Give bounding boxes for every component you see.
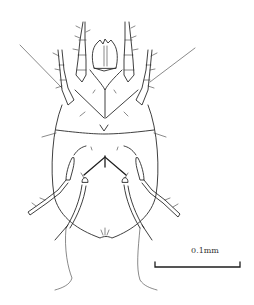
front-legs-right — [124, 22, 157, 105]
body-outline — [42, 105, 166, 238]
front-legs-left — [53, 22, 90, 105]
scale-bar-label: 0.1mm — [180, 246, 230, 255]
long-setae — [20, 45, 195, 88]
posterior-long-setae — [55, 228, 157, 290]
posterior-setae — [101, 228, 109, 235]
mite-drawing — [0, 0, 254, 305]
mite-illustration: 0.1mm — [0, 0, 254, 305]
propodosoma — [75, 70, 138, 131]
scale-bar — [155, 262, 240, 267]
gnathosoma — [92, 39, 117, 71]
ventral-sclerites — [66, 146, 144, 180]
